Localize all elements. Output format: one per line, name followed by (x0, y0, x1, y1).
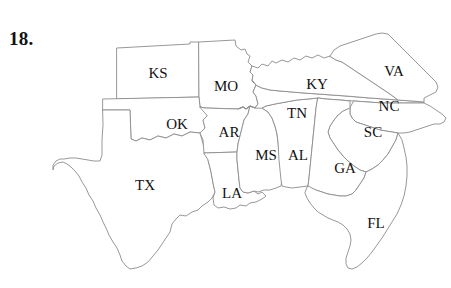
state-label-GA: GA (334, 161, 356, 176)
state-label-NC: NC (379, 99, 400, 114)
southeast-us-map-svg (0, 0, 451, 288)
state-label-AL: AL (288, 148, 308, 163)
state-label-VA: VA (384, 64, 404, 79)
state-label-OK: OK (166, 117, 188, 132)
state-label-AR: AR (219, 125, 240, 140)
state-label-FL: FL (367, 216, 385, 231)
state-label-LA: LA (222, 186, 242, 201)
state-shape-MO (199, 40, 258, 109)
state-label-SC: SC (364, 125, 382, 140)
state-label-MO: MO (214, 79, 238, 94)
state-label-TN: TN (287, 106, 307, 121)
state-label-KY: KY (306, 77, 328, 92)
state-label-KS: KS (148, 66, 167, 81)
map-figure: 18. KS MO KY VA (0, 0, 451, 288)
state-label-TX: TX (135, 178, 155, 193)
state-label-MS: MS (255, 148, 277, 163)
